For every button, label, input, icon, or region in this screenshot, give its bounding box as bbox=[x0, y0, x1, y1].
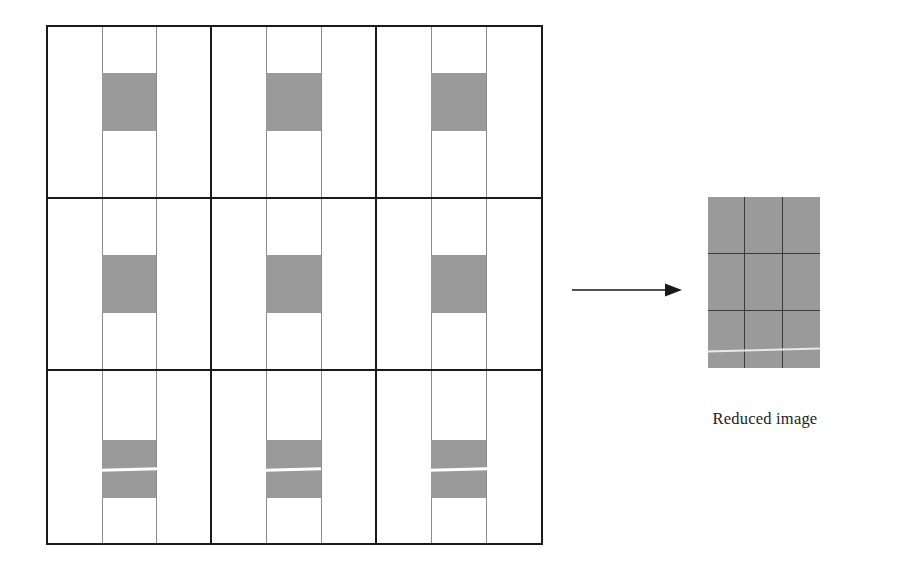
reduced-cell-r1c3 bbox=[783, 197, 820, 254]
reduced-cell-r2c2 bbox=[745, 254, 782, 311]
gray-patch bbox=[102, 255, 156, 313]
gray-patch bbox=[266, 255, 320, 313]
reduced-image-block bbox=[708, 197, 820, 368]
white-seam-line bbox=[430, 467, 487, 471]
figure-canvas: Reduced image bbox=[0, 0, 919, 585]
reduced-cell-r2c3 bbox=[783, 254, 820, 311]
source-image-grid bbox=[46, 25, 543, 545]
macro-cell-r2c1 bbox=[48, 199, 212, 371]
thin-column-rule-right bbox=[321, 199, 322, 371]
reduced-cell-r3c1 bbox=[708, 311, 745, 368]
white-seam-line bbox=[101, 467, 157, 471]
gray-patch bbox=[431, 440, 486, 498]
macro-cell-r1c1 bbox=[48, 27, 212, 199]
thin-column-rule-right bbox=[321, 371, 322, 543]
gray-patch bbox=[102, 440, 156, 498]
macro-cell-r2c3 bbox=[377, 199, 541, 371]
thin-column-rule-right bbox=[486, 27, 487, 199]
gray-patch bbox=[266, 440, 320, 498]
reduced-cell-r1c1 bbox=[708, 197, 745, 254]
macro-cell-r3c1 bbox=[48, 371, 212, 543]
white-seam-line bbox=[265, 467, 321, 471]
right-arrow-icon bbox=[572, 280, 682, 300]
macro-cell-r2c2 bbox=[212, 199, 376, 371]
reduced-cell-r3c3 bbox=[783, 311, 820, 368]
macro-cell-r3c2 bbox=[212, 371, 376, 543]
reduced-image-caption: Reduced image bbox=[660, 409, 870, 429]
reduced-cell-r1c2 bbox=[745, 197, 782, 254]
gray-patch bbox=[266, 73, 320, 131]
thin-column-rule-right bbox=[486, 371, 487, 543]
gray-patch bbox=[431, 73, 486, 131]
macro-cell-r1c2 bbox=[212, 27, 376, 199]
macro-cell-r3c3 bbox=[377, 371, 541, 543]
reduced-cell-r2c1 bbox=[708, 254, 745, 311]
macro-cell-r1c3 bbox=[377, 27, 541, 199]
thin-column-rule-right bbox=[156, 27, 157, 199]
reduced-image-grid bbox=[708, 197, 820, 368]
reduced-cell-r3c2 bbox=[745, 311, 782, 368]
thin-column-rule-right bbox=[321, 27, 322, 199]
thin-column-rule-right bbox=[156, 371, 157, 543]
gray-patch bbox=[431, 255, 486, 313]
thin-column-rule-right bbox=[156, 199, 157, 371]
thin-column-rule-right bbox=[486, 199, 487, 371]
gray-patch bbox=[102, 73, 156, 131]
